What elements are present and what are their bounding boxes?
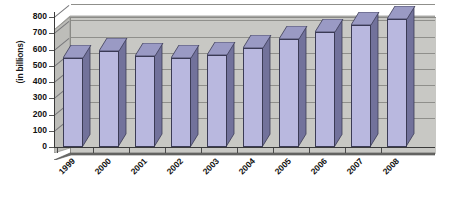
plot-area — [54, 12, 435, 160]
y-axis-tick-mark — [49, 115, 54, 116]
gridline — [71, 4, 435, 5]
y-axis-tick-labels: 0100200300400500600700800 — [0, 0, 50, 197]
bar-column[interactable] — [171, 45, 191, 147]
x-axis-tick-mark — [93, 148, 94, 153]
bar-top-face — [99, 38, 129, 58]
bar-top-face — [315, 19, 345, 39]
bar-front-face — [387, 19, 407, 147]
bar-front-face — [279, 39, 299, 147]
y-axis-tick-mark — [49, 147, 54, 148]
bar-front-face — [243, 48, 263, 147]
x-axis-tick-mark — [381, 148, 382, 153]
bar-column[interactable] — [315, 19, 335, 147]
x-axis-tick-mark — [165, 148, 166, 153]
y-axis-tick-label: 800 — [3, 12, 47, 21]
y-axis-tick-label: 200 — [3, 110, 47, 119]
x-axis-tick-mark — [57, 148, 58, 153]
bar-top-face — [243, 35, 273, 55]
bar-front-face — [315, 32, 335, 147]
bar-top-face — [135, 43, 165, 63]
y-axis-line — [54, 12, 55, 148]
bar-side-shape — [406, 6, 416, 153]
y-axis-tick-mark — [49, 98, 54, 99]
bar-column[interactable] — [207, 42, 227, 147]
bar-side-shape — [334, 19, 344, 153]
bar-column[interactable] — [243, 35, 263, 147]
y-axis-tick-label: 300 — [3, 93, 47, 102]
x-axis-tick-mark — [129, 148, 130, 153]
bar-column[interactable] — [135, 43, 155, 147]
x-axis-tick-mark — [345, 148, 346, 153]
y-axis-tick-label: 400 — [3, 77, 47, 86]
bar-front-face — [171, 58, 191, 147]
bar-column[interactable] — [99, 38, 119, 147]
bar-top-face — [387, 6, 417, 26]
x-axis-tick-mark — [273, 148, 274, 153]
bar-column[interactable] — [63, 45, 83, 147]
y-axis-tick-mark — [49, 50, 54, 51]
x-axis-tick-mark — [237, 148, 238, 153]
bar-top-face — [63, 45, 93, 65]
bar-column[interactable] — [387, 6, 407, 147]
x-axis-tick-mark — [309, 148, 310, 153]
bar-front-face — [63, 58, 83, 147]
x-axis-tick-mark — [201, 148, 202, 153]
bar-top-face — [207, 42, 237, 62]
y-axis-tick-mark — [49, 131, 54, 132]
y-axis-tick-label: 700 — [3, 28, 47, 37]
y-axis-tick-label: 600 — [3, 45, 47, 54]
bar-column[interactable] — [279, 26, 299, 147]
bar-front-face — [99, 51, 119, 147]
x-axis-line — [54, 147, 435, 148]
bar-front-face — [135, 56, 155, 147]
bar-front-face — [351, 25, 371, 147]
y-axis-tick-mark — [49, 82, 54, 83]
y-axis-tick-label: 100 — [3, 126, 47, 135]
y-axis-tick-mark — [49, 17, 54, 18]
y-axis-tick-mark — [49, 33, 54, 34]
bar-top-face — [279, 26, 309, 46]
bar-chart: (in billions) 0100200300400500600700800 … — [0, 0, 449, 197]
bar-column[interactable] — [351, 12, 371, 147]
y-axis-tick-label: 500 — [3, 61, 47, 70]
bar-front-face — [207, 55, 227, 147]
y-axis-tick-label: 0 — [3, 142, 47, 151]
bar-top-face — [171, 45, 201, 65]
bar-top-face — [351, 12, 381, 32]
y-axis-tick-mark — [49, 66, 54, 67]
bar-side-shape — [370, 12, 380, 153]
